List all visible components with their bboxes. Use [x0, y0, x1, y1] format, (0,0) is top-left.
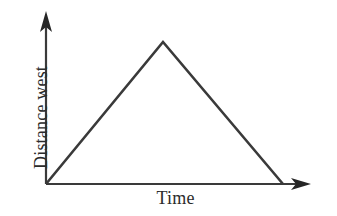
- data-series-line: [46, 42, 283, 184]
- figure-root: Distance west Time: [0, 0, 337, 216]
- x-axis-label: Time: [7, 188, 337, 209]
- y-axis-label: Distance west: [31, 66, 52, 169]
